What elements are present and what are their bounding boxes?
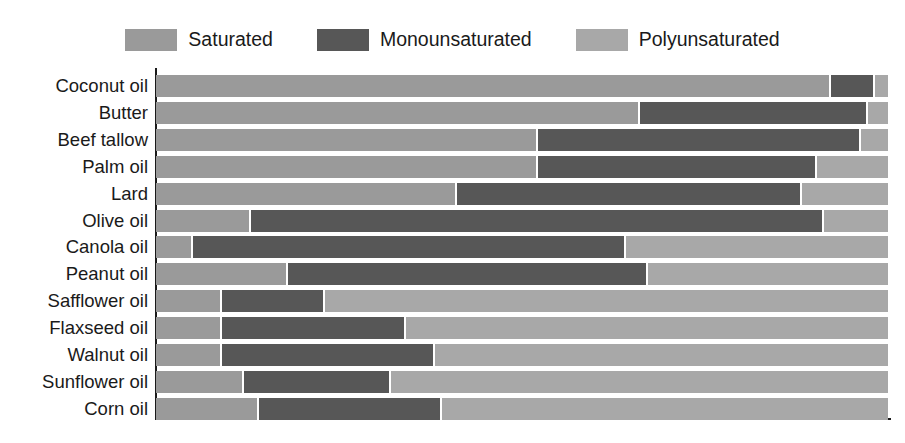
legend-item[interactable]: Polyunsaturated xyxy=(576,29,780,51)
bar-segment-monounsaturated[interactable] xyxy=(257,398,441,420)
bar-segment-polyunsaturated[interactable] xyxy=(323,290,888,312)
y-axis-label: Peanut oil xyxy=(0,263,148,285)
bar-segment-polyunsaturated[interactable] xyxy=(859,129,888,151)
bar-segment-saturated[interactable] xyxy=(156,344,222,366)
bar-row[interactable] xyxy=(156,317,890,339)
legend-label: Saturated xyxy=(188,30,273,50)
legend-item[interactable]: Saturated xyxy=(125,29,273,51)
y-axis-label: Sunflower oil xyxy=(0,371,148,393)
legend-item[interactable]: Monounsaturated xyxy=(317,29,532,51)
y-axis-label: Flaxseed oil xyxy=(0,317,148,339)
bar-row[interactable] xyxy=(156,183,890,205)
bar-segment-saturated[interactable] xyxy=(156,371,244,393)
bar-row[interactable] xyxy=(156,210,890,232)
bar-segment-polyunsaturated[interactable] xyxy=(800,183,888,205)
bar-segment-saturated[interactable] xyxy=(156,210,251,232)
bar-row[interactable] xyxy=(156,129,890,151)
y-axis-label: Palm oil xyxy=(0,156,148,178)
bar-row[interactable] xyxy=(156,398,890,420)
bar-row[interactable] xyxy=(156,263,890,285)
bar-segment-saturated[interactable] xyxy=(156,102,640,124)
bar-segment-saturated[interactable] xyxy=(156,398,259,420)
bar-segment-saturated[interactable] xyxy=(156,290,222,312)
bar-segment-polyunsaturated[interactable] xyxy=(646,263,888,285)
bar-segment-polyunsaturated[interactable] xyxy=(822,210,888,232)
y-axis-label: Butter xyxy=(0,102,148,124)
legend-label: Polyunsaturated xyxy=(639,30,780,50)
bar-segment-monounsaturated[interactable] xyxy=(220,290,323,312)
bar-segment-monounsaturated[interactable] xyxy=(191,236,624,258)
bar-segment-polyunsaturated[interactable] xyxy=(866,102,888,124)
bar-segment-monounsaturated[interactable] xyxy=(242,371,389,393)
fat-composition-chart: SaturatedMonounsaturatedPolyunsaturated … xyxy=(0,0,905,443)
bar-segment-monounsaturated[interactable] xyxy=(455,183,800,205)
y-axis-label: Canola oil xyxy=(0,236,148,258)
y-axis-category-labels: Coconut oilButterBeef tallowPalm oilLard… xyxy=(0,68,148,418)
y-axis-label: Coconut oil xyxy=(0,75,148,97)
bar-segment-polyunsaturated[interactable] xyxy=(389,371,888,393)
bar-segment-saturated[interactable] xyxy=(156,263,288,285)
bar-row[interactable] xyxy=(156,344,890,366)
bar-segment-monounsaturated[interactable] xyxy=(249,210,822,232)
y-axis-label: Lard xyxy=(0,183,148,205)
bar-row[interactable] xyxy=(156,156,890,178)
bar-segment-monounsaturated[interactable] xyxy=(638,102,866,124)
bar-segment-monounsaturated[interactable] xyxy=(220,317,404,339)
bar-segment-saturated[interactable] xyxy=(156,236,193,258)
bar-segment-monounsaturated[interactable] xyxy=(220,344,433,366)
y-axis-label: Beef tallow xyxy=(0,129,148,151)
bar-row[interactable] xyxy=(156,102,890,124)
bar-segment-saturated[interactable] xyxy=(156,183,457,205)
legend-label: Monounsaturated xyxy=(380,30,532,50)
bar-segment-polyunsaturated[interactable] xyxy=(815,156,888,178)
y-axis-label: Corn oil xyxy=(0,398,148,420)
bar-segment-monounsaturated[interactable] xyxy=(536,129,859,151)
bar-segment-monounsaturated[interactable] xyxy=(286,263,646,285)
bar-segment-polyunsaturated[interactable] xyxy=(624,236,888,258)
plot-area xyxy=(156,68,890,418)
legend-swatch-monounsaturated xyxy=(317,29,369,51)
bar-row[interactable] xyxy=(156,290,890,312)
chart-legend: SaturatedMonounsaturatedPolyunsaturated xyxy=(0,22,905,58)
y-axis-label: Safflower oil xyxy=(0,290,148,312)
legend-swatch-polyunsaturated xyxy=(576,29,628,51)
bar-row[interactable] xyxy=(156,371,890,393)
bar-row[interactable] xyxy=(156,75,890,97)
bar-segment-saturated[interactable] xyxy=(156,129,538,151)
bar-segment-polyunsaturated[interactable] xyxy=(433,344,888,366)
legend-swatch-saturated xyxy=(125,29,177,51)
bar-segment-polyunsaturated[interactable] xyxy=(873,75,888,97)
bar-segment-saturated[interactable] xyxy=(156,156,538,178)
bar-segment-monounsaturated[interactable] xyxy=(829,75,873,97)
bar-segment-saturated[interactable] xyxy=(156,317,222,339)
y-axis-label: Walnut oil xyxy=(0,344,148,366)
y-axis-label: Olive oil xyxy=(0,210,148,232)
bar-segment-saturated[interactable] xyxy=(156,75,831,97)
bar-segment-polyunsaturated[interactable] xyxy=(440,398,888,420)
bar-segment-monounsaturated[interactable] xyxy=(536,156,815,178)
bar-row[interactable] xyxy=(156,236,890,258)
bar-segment-polyunsaturated[interactable] xyxy=(404,317,888,339)
